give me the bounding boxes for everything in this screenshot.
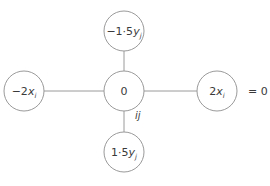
node-center: 0 — [104, 71, 144, 111]
node-right-label: 2xi — [209, 85, 225, 100]
node-bottom-label: 1·5yj — [111, 146, 137, 161]
node-top: −1·5yj — [104, 11, 144, 51]
node-left-label: −2xi — [12, 85, 37, 100]
equation-suffix: = 0 — [248, 85, 268, 98]
stencil-diagram: −1·5yj −2xi 0 ij 2xi 1·5yj = 0 — [0, 0, 270, 186]
center-index-label: ij — [135, 110, 141, 121]
node-right: 2xi — [197, 71, 237, 111]
node-left: −2xi — [4, 71, 44, 111]
node-bottom: 1·5yj — [104, 132, 144, 172]
node-top-label: −1·5yj — [106, 25, 141, 40]
node-center-label: 0 — [121, 85, 128, 98]
